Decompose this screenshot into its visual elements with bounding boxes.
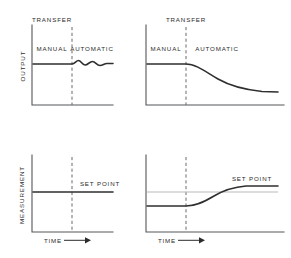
time-arrow-head-bottom-right [199,237,205,243]
automatic-label-top-right: AUTOMATIC [195,45,239,52]
panel-top-left: TRANSFER MANUAL AUTOMATIC OUTPUT [19,16,114,105]
manual-label-top-left: MANUAL [37,45,68,52]
axes-bottom-right [146,155,284,232]
manual-label-top-right: MANUAL [151,45,182,52]
transfer-label-top-left: TRANSFER [32,16,72,23]
axes-top-right [146,25,284,105]
setpoint-label-bottom-left: SET POINT [80,180,120,187]
panel-bottom-right: SET POINT TIME [146,155,284,244]
automatic-label-top-left: AUTOMATIC [70,45,114,52]
x-axis-label-time-bottom-left: TIME [44,237,62,244]
output-trace-top-right [147,64,278,92]
control-transfer-diagram: TRANSFER MANUAL AUTOMATIC OUTPUT TRANSFE… [0,0,291,258]
figure-container: TRANSFER MANUAL AUTOMATIC OUTPUT TRANSFE… [0,0,291,258]
time-arrow-head-bottom-left [85,237,91,243]
panel-bottom-left: SET POINT MEASUREMENT TIME [18,155,120,244]
output-trace-top-left [33,61,113,66]
y-axis-label-output-top-left: OUTPUT [19,51,26,82]
measurement-trace-bottom-right [147,186,278,206]
y-axis-label-measurement-bottom-left: MEASUREMENT [18,166,25,224]
x-axis-label-time-bottom-right: TIME [158,237,176,244]
transfer-label-top-right: TRANSFER [166,16,206,23]
panel-top-right: TRANSFER MANUAL AUTOMATIC [146,16,284,105]
setpoint-label-bottom-right: SET POINT [232,175,272,182]
